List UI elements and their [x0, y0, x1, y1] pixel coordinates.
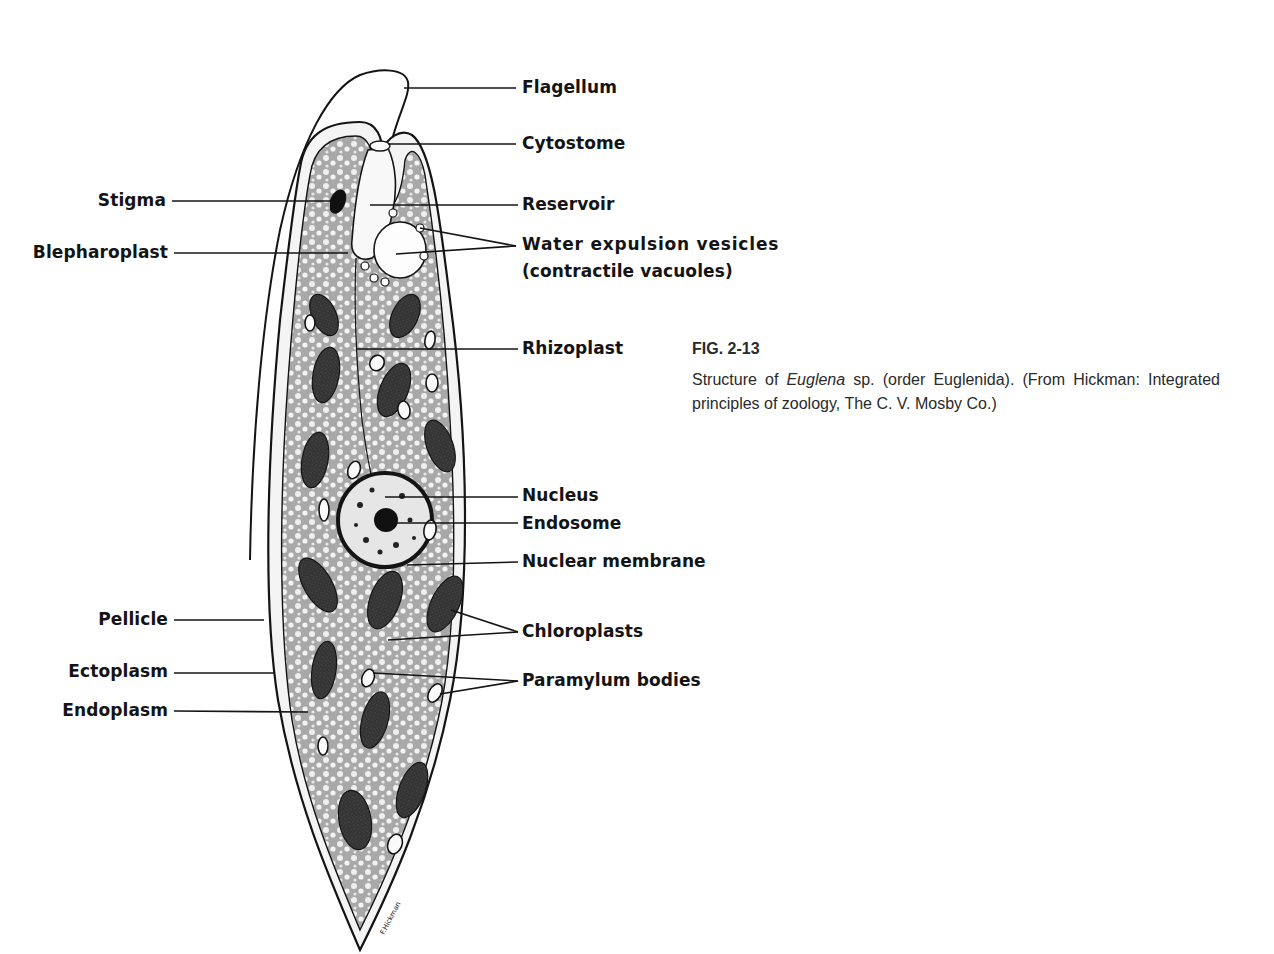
cytostome-shape: [370, 141, 390, 151]
label-stigma: Stigma: [98, 190, 166, 210]
label-endosome: Endosome: [522, 513, 621, 533]
label-ectoplasm: Ectoplasm: [68, 661, 168, 681]
label-cytostome: Cytostome: [522, 133, 625, 153]
label-rhizoplast: Rhizoplast: [522, 338, 623, 358]
label-reservoir: Reservoir: [522, 194, 615, 214]
label-water-expulsion-vesicles: Water expulsion vesicles: [522, 234, 779, 254]
label-contractile-vacuoles: (contractile vacuoles): [522, 261, 733, 281]
label-nuclear-membrane: Nuclear membrane: [522, 551, 706, 571]
caption-part-1: Structure of: [692, 371, 786, 388]
label-endoplasm: Endoplasm: [62, 700, 168, 720]
endosome-shape: [374, 508, 398, 532]
label-nucleus: Nucleus: [522, 485, 599, 505]
label-pellicle: Pellicle: [98, 609, 168, 629]
label-flagellum: Flagellum: [522, 77, 617, 97]
figure-number: FIG. 2-13: [692, 340, 1220, 358]
caption-text: Structure of Euglena sp. (order Euglenid…: [692, 368, 1220, 416]
label-paramylum-bodies: Paramylum bodies: [522, 670, 701, 690]
euglena-diagram: F.Hickman: [0, 0, 1274, 954]
figure-caption: FIG. 2-13 Structure of Euglena sp. (orde…: [692, 340, 1220, 416]
label-chloroplasts: Chloroplasts: [522, 621, 643, 641]
caption-genus: Euglena: [786, 371, 845, 388]
figure-page: F.Hickman Flagellum Cytostome Reservoi: [0, 0, 1274, 954]
label-blepharoplast: Blepharoplast: [33, 242, 168, 262]
